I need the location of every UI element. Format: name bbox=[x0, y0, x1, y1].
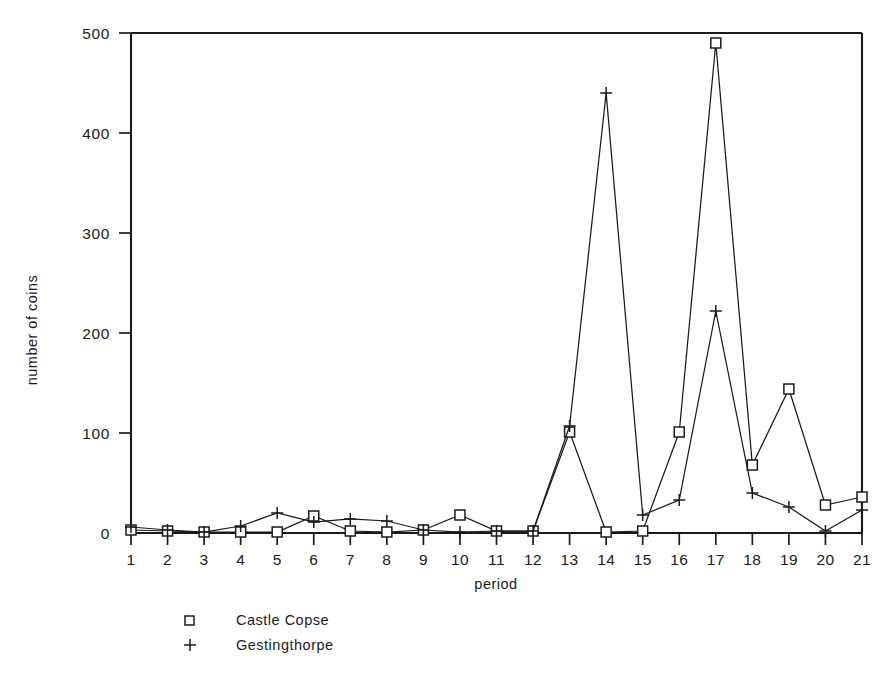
legend-label-castle-copse: Castle Copse bbox=[236, 612, 329, 628]
datapoint-gestingthorpe-8 bbox=[381, 515, 393, 527]
datapoint-castle-copse-18 bbox=[747, 460, 757, 470]
datapoint-gestingthorpe-18 bbox=[746, 487, 758, 499]
x-tick-label-14: 14 bbox=[597, 551, 615, 568]
legend-plus-marker-icon bbox=[184, 639, 196, 651]
x-tick-label-10: 10 bbox=[451, 551, 469, 568]
y-tick-label-0: 0 bbox=[101, 525, 110, 542]
datapoint-castle-copse-15 bbox=[638, 526, 648, 536]
datapoint-castle-copse-5 bbox=[272, 527, 282, 537]
x-tick-label-15: 15 bbox=[634, 551, 652, 568]
legend-entry-castle-copse[interactable]: Castle Copse bbox=[185, 612, 329, 628]
x-tick-label-11: 11 bbox=[488, 551, 505, 568]
datapoint-castle-copse-17 bbox=[711, 38, 721, 48]
datapoint-castle-copse-16 bbox=[674, 427, 684, 437]
coin-frequency-line-chart: 500 400 300 200 100 0 number of coins 12… bbox=[0, 0, 886, 684]
datapoint-castle-copse-21 bbox=[857, 492, 867, 502]
x-tick-label-20: 20 bbox=[816, 551, 834, 568]
datapoint-gestingthorpe-21 bbox=[856, 504, 868, 516]
x-axis-title: period bbox=[474, 576, 517, 592]
x-tick-label-21: 21 bbox=[853, 551, 871, 568]
datapoint-gestingthorpe-14 bbox=[600, 87, 612, 99]
series-castle-copse bbox=[126, 38, 867, 537]
x-tick-label-7: 7 bbox=[346, 551, 355, 568]
x-tick-label-5: 5 bbox=[273, 551, 282, 568]
x-tick-label-1: 1 bbox=[126, 551, 135, 568]
series-line-castle-copse bbox=[131, 43, 862, 532]
y-tick-label-400: 400 bbox=[82, 125, 110, 142]
x-axis-tick-labels: 123456789101112131415161718192021 bbox=[126, 551, 871, 568]
x-tick-label-12: 12 bbox=[524, 551, 542, 568]
y-tick-label-500: 500 bbox=[82, 25, 110, 42]
datapoint-castle-copse-8 bbox=[382, 527, 392, 537]
datapoint-gestingthorpe-20 bbox=[819, 525, 831, 537]
x-tick-label-17: 17 bbox=[707, 551, 725, 568]
x-tick-label-4: 4 bbox=[236, 551, 245, 568]
x-tick-label-3: 3 bbox=[200, 551, 209, 568]
legend-entry-gestingthorpe[interactable]: Gestingthorpe bbox=[184, 637, 334, 653]
legend-label-gestingthorpe: Gestingthorpe bbox=[236, 637, 334, 653]
datapoint-gestingthorpe-17 bbox=[710, 305, 722, 317]
y-axis-tick-labels: 500 400 300 200 100 0 bbox=[82, 25, 110, 542]
x-tick-label-6: 6 bbox=[309, 551, 318, 568]
x-tick-label-16: 16 bbox=[670, 551, 688, 568]
x-tick-label-13: 13 bbox=[561, 551, 579, 568]
figure-container: 500 400 300 200 100 0 number of coins 12… bbox=[0, 0, 886, 684]
datapoint-castle-copse-20 bbox=[820, 500, 830, 510]
chart-legend: Castle Copse Gestingthorpe bbox=[184, 612, 334, 653]
x-tick-label-19: 19 bbox=[780, 551, 798, 568]
x-tick-label-18: 18 bbox=[743, 551, 761, 568]
figure-caption bbox=[0, 669, 560, 684]
datapoint-castle-copse-19 bbox=[784, 384, 794, 394]
datapoint-gestingthorpe-10 bbox=[454, 526, 466, 538]
x-tick-label-8: 8 bbox=[382, 551, 391, 568]
x-tick-label-9: 9 bbox=[419, 551, 428, 568]
datapoint-castle-copse-7 bbox=[345, 526, 355, 536]
y-axis-ticks bbox=[119, 33, 131, 433]
datapoint-gestingthorpe-19 bbox=[783, 501, 795, 513]
legend-square-marker-icon bbox=[185, 616, 194, 625]
y-axis-title: number of coins bbox=[24, 275, 40, 386]
datapoint-castle-copse-10 bbox=[455, 510, 465, 520]
datapoint-castle-copse-14 bbox=[601, 527, 611, 537]
y-tick-label-100: 100 bbox=[82, 425, 110, 442]
x-tick-label-2: 2 bbox=[163, 551, 172, 568]
y-tick-label-200: 200 bbox=[82, 325, 110, 342]
data-series-group bbox=[125, 38, 868, 538]
datapoint-gestingthorpe-16 bbox=[673, 494, 685, 506]
datapoint-gestingthorpe-7 bbox=[344, 513, 356, 525]
datapoint-gestingthorpe-5 bbox=[271, 507, 283, 519]
y-tick-label-300: 300 bbox=[82, 225, 110, 242]
